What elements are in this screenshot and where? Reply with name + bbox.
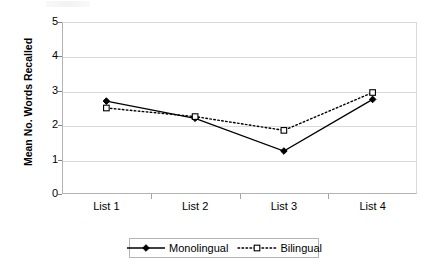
x-axis-label: List 4 xyxy=(333,200,413,212)
x-axis-tick xyxy=(240,194,241,199)
y-axis-label: 4 xyxy=(28,50,58,61)
legend-item-monolingual: Monolingual xyxy=(126,242,228,254)
y-axis-label: 5 xyxy=(28,16,58,27)
y-axis-title: Mean No. Words Recalled xyxy=(22,12,34,192)
open-square-icon xyxy=(237,242,277,254)
x-axis-label: List 2 xyxy=(155,200,235,212)
y-axis-tick xyxy=(58,56,62,57)
y-axis-tick xyxy=(58,160,62,161)
scan-artifact xyxy=(46,1,90,7)
x-axis-label: List 3 xyxy=(244,200,324,212)
legend-item-bilingual: Bilingual xyxy=(237,242,322,254)
y-axis-tick xyxy=(58,125,62,126)
gridline xyxy=(63,92,416,93)
legend-label: Bilingual xyxy=(280,243,322,254)
filled-diamond-icon xyxy=(126,242,166,254)
y-axis-tick xyxy=(58,22,62,23)
gridline xyxy=(63,57,416,58)
gridline xyxy=(63,126,416,127)
y-axis-tick xyxy=(58,91,62,92)
y-axis-label: 2 xyxy=(28,119,58,130)
y-axis-tick xyxy=(58,194,62,195)
gridline xyxy=(63,161,416,162)
x-axis-label: List 1 xyxy=(66,200,146,212)
y-axis-label: 3 xyxy=(28,85,58,96)
x-axis-tick xyxy=(151,194,152,199)
legend-label: Monolingual xyxy=(169,243,228,254)
legend: MonolingualBilingual xyxy=(129,238,319,258)
line-chart: Mean No. Words Recalled 012345 List 1Lis… xyxy=(0,0,432,270)
y-axis-label: 1 xyxy=(28,154,58,165)
y-axis-label: 0 xyxy=(28,188,58,199)
x-axis-tick xyxy=(328,194,329,199)
plot-area xyxy=(62,22,417,194)
